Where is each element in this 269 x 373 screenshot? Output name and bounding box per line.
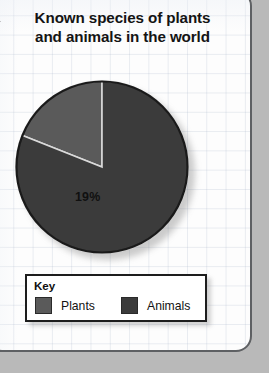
pie-chart: 19% 81% (15, 80, 189, 254)
pie-chart-svg (15, 80, 189, 254)
page-title-line-1: Known species of plants (0, 8, 247, 27)
page-card: Known species of plants and animals in t… (0, 0, 252, 352)
key-entry-plants: Plants (35, 297, 95, 314)
key-label-animals: Animals (147, 299, 190, 313)
key-label-plants: Plants (61, 299, 95, 313)
key-swatch-plants (35, 297, 52, 314)
pie-label-plants: 19% (75, 190, 100, 204)
key-heading: Key (34, 279, 55, 292)
key-swatch-animals (121, 297, 138, 314)
key-box: Key Plants Animals (25, 274, 207, 322)
page-title: Known species of plants and animals in t… (0, 8, 247, 47)
key-entry-animals: Animals (121, 297, 190, 314)
page-title-line-2: and animals in the world (0, 27, 247, 46)
screenshot-root: Known species of plants and animals in t… (0, 0, 269, 373)
